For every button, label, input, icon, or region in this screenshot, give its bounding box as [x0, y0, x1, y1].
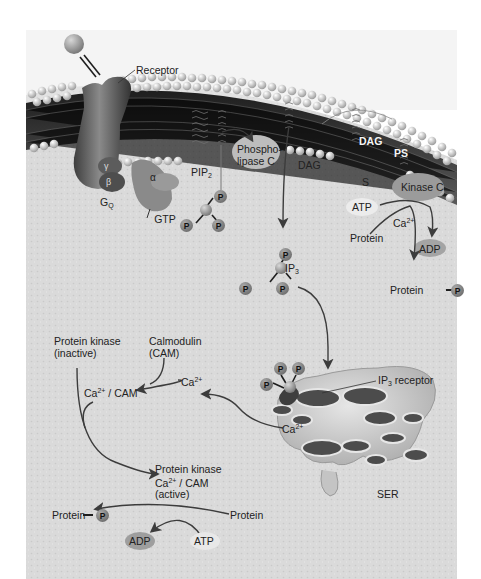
protein-pkc-label: Protein [350, 232, 383, 244]
protein-kinase-active-line3: (active) [155, 488, 189, 500]
dag-membrane-label: DAG [359, 135, 382, 147]
atp-bottom-label: ATP [194, 535, 214, 547]
protein-kinase-inactive-line2: (inactive) [54, 347, 97, 359]
phosphate-er-2: P [292, 362, 305, 375]
phosphate-ip3-1: P [279, 248, 292, 261]
ip3-label: IP3 [285, 262, 299, 278]
phosphate-pkc-product: P [451, 284, 464, 297]
atp-pkc-label: ATP [352, 201, 372, 213]
ca-free-label: Ca2+ [181, 374, 202, 388]
beta-label: β [106, 176, 111, 188]
pip2-label: PIP2 [191, 166, 212, 182]
phosphate-er-3: P [260, 378, 273, 391]
ca-cam-label: Ca2+ / CAM [84, 385, 138, 399]
adp-pkc-label: ADP [419, 243, 441, 255]
pip2-inositol [200, 204, 212, 216]
s-label: S [362, 176, 369, 188]
ligand-molecule [64, 34, 84, 54]
calmodulin-line1: Calmodulin [149, 335, 202, 347]
ip3-receptor-label: IP3 receptor [378, 374, 433, 390]
gtp-label: GTP [153, 213, 177, 225]
ps-label: PS [394, 147, 408, 159]
protein-phosphorylated-bottom-label: Protein [52, 509, 85, 521]
phospholipase-c-line1: Phospho- [237, 143, 282, 155]
gq-label: GQ [100, 196, 114, 212]
alpha-label: α [150, 172, 156, 184]
phosphate-ip3-3: P [276, 282, 289, 295]
gamma-label: γ [104, 160, 109, 172]
phosphate-bottom-product: P [96, 509, 109, 522]
ca-pkc-label: Ca2+ [393, 215, 414, 229]
signaling-pathway-diagram: Receptor γ β α GQ GTP PIP2 Phospho- lipa… [0, 0, 481, 579]
phosphate-pip2-2: P [180, 219, 193, 232]
phospholipase-c-line2: lipase C [237, 155, 275, 167]
phosphate-ip3-2: P [239, 282, 252, 295]
phosphate-pip2-1: P [214, 190, 227, 203]
ca-er-label: Ca2+ [282, 421, 303, 435]
phosphate-pip2-3: P [212, 219, 225, 232]
kinase-c-label: Kinase C [401, 181, 444, 193]
protein-bottom-label: Protein [230, 509, 263, 521]
g-beta-subunit [99, 172, 125, 192]
er-ip3-inositol [284, 381, 296, 393]
phosphate-er-1: P [274, 362, 287, 375]
protein-kinase-inactive-line1: Protein kinase [54, 335, 121, 347]
protein-phosphorylated-pkc-label: Protein [390, 284, 423, 296]
receptor-label: Receptor [136, 64, 179, 76]
adp-bottom-label: ADP [129, 535, 151, 547]
protein-kinase-active-line1: Protein kinase [155, 463, 222, 475]
calmodulin-line2: (CAM) [149, 347, 179, 359]
ser-label: SER [377, 488, 399, 500]
protein-kinase-active-line2: Ca2+ / CAM [155, 475, 209, 489]
dag-cytosolic-label: DAG [298, 159, 321, 171]
